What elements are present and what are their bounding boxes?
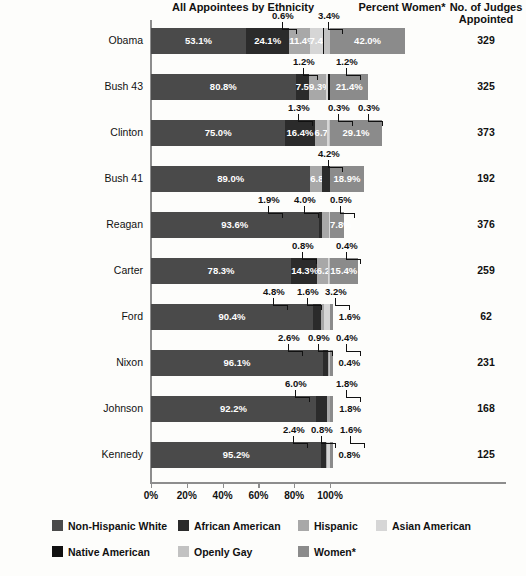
stacked-bar-nixon[interactable]: 96.1% <box>151 350 330 376</box>
women-bar-bush-43[interactable]: 21.4% <box>330 74 368 100</box>
x-tick-20 <box>187 482 188 488</box>
callout-leader-vertical <box>328 22 329 29</box>
x-tick-label-40: 40% <box>203 490 243 501</box>
segment-non-hispanic-white[interactable]: 78.3% <box>151 258 291 284</box>
segment-non-hispanic-white[interactable]: 89.0% <box>151 166 310 192</box>
callout-leader-vertical <box>321 436 322 443</box>
header-all-appointees-by-ethnicity: All Appointees by Ethnicity <box>138 1 348 13</box>
callout-leader-tip <box>349 305 350 310</box>
segment-african-american[interactable] <box>322 166 330 192</box>
segment-non-hispanic-white[interactable]: 95.2% <box>151 442 321 468</box>
stacked-bar-bush-41[interactable]: 89.0%6.8% <box>151 166 330 192</box>
stacked-bar-johnson[interactable]: 92.2% <box>151 396 330 422</box>
row-label-ford: Ford <box>0 310 143 322</box>
women-bar-reagan[interactable]: 7.8% <box>330 212 344 238</box>
callout-leader-horizontal <box>338 121 352 122</box>
callout-leader-horizontal <box>318 351 332 352</box>
judges-appointed-ford: 62 <box>446 310 526 322</box>
legend-item-openly-gay[interactable]: Openly Gay <box>178 542 252 560</box>
segment-non-hispanic-white[interactable]: 80.8% <box>151 74 296 100</box>
callout-leader-vertical <box>346 390 347 397</box>
callout-label: 1.6% <box>297 286 319 297</box>
callout-leader-horizontal <box>307 305 321 306</box>
legend-item-native-american[interactable]: Native American <box>52 542 150 560</box>
callout-leader-vertical <box>338 114 339 121</box>
callout-leader-horizontal <box>298 121 312 122</box>
segment-african-american[interactable]: 7.5% <box>296 74 309 100</box>
judges-appointed-nixon: 231 <box>446 356 526 368</box>
segment-non-hispanic-white[interactable]: 96.1% <box>151 350 323 376</box>
legend-row: Native AmericanOpenly GayWomen* <box>0 542 526 562</box>
legend-label: African American <box>194 520 281 532</box>
header-judges-line1: No. of Judges <box>446 1 526 13</box>
chart-row: Obama53.1%24.1%11.4%7.4%42.0%3290.6%3.4% <box>0 28 526 54</box>
callout-leader-tip <box>342 29 343 34</box>
callout-leader-tip <box>354 213 355 218</box>
stacked-bar-clinton[interactable]: 75.0%16.4%6.7% <box>151 120 330 146</box>
callout-leader-vertical <box>328 160 329 167</box>
callout-leader-horizontal <box>302 259 316 260</box>
callout-label: 3.4% <box>318 10 340 21</box>
stacked-bar-ford[interactable]: 90.4% <box>151 304 330 330</box>
callout-leader-vertical <box>340 206 341 213</box>
callout-label: 0.3% <box>328 102 350 113</box>
stacked-bar-carter[interactable]: 78.3%14.3%6.2% <box>151 258 330 284</box>
segment-hispanic[interactable]: 6.2% <box>317 258 328 284</box>
callout-label: 0.4% <box>336 332 358 343</box>
stacked-bar-bush-43[interactable]: 80.8%7.5%9.3% <box>151 74 330 100</box>
callout-leader-tip <box>360 397 361 402</box>
segment-hispanic[interactable] <box>322 212 329 238</box>
segment-non-hispanic-white[interactable]: 92.2% <box>151 396 316 422</box>
callout-leader-tip <box>360 351 361 356</box>
segment-non-hispanic-white[interactable]: 75.0% <box>151 120 285 146</box>
callout-leader-tip <box>309 397 310 402</box>
callout-label: 4.0% <box>294 194 316 205</box>
callout-leader-horizontal <box>368 121 382 122</box>
women-bar-bush-41[interactable]: 18.9% <box>330 166 364 192</box>
callout-label: 0.8% <box>311 424 333 435</box>
callout-leader-vertical <box>335 298 336 305</box>
row-label-nixon: Nixon <box>0 356 143 368</box>
callout-leader-tip <box>352 121 353 126</box>
segment-hispanic[interactable]: 6.8% <box>310 166 322 192</box>
stacked-bar-reagan[interactable]: 93.6% <box>151 212 330 238</box>
callout-leader-horizontal <box>346 351 360 352</box>
segment-non-hispanic-white[interactable]: 53.1% <box>151 28 246 54</box>
women-bar-carter[interactable]: 15.4% <box>330 258 358 284</box>
legend-label: Native American <box>68 546 150 558</box>
judges-appointed-carter: 259 <box>446 264 526 276</box>
segment-asian-american[interactable]: 7.4% <box>310 28 323 54</box>
x-axis-line <box>150 482 506 484</box>
segment-african-american[interactable]: 14.3% <box>291 258 317 284</box>
stacked-bar-obama[interactable]: 53.1%24.1%11.4%7.4% <box>151 28 330 54</box>
legend-label: Asian American <box>392 520 471 532</box>
segment-non-hispanic-white[interactable]: 90.4% <box>151 304 313 330</box>
segment-african-american[interactable]: 16.4% <box>285 120 314 146</box>
callout-leader-horizontal <box>288 351 302 352</box>
segment-hispanic[interactable]: 6.7% <box>315 120 327 146</box>
callout-leader-vertical <box>268 206 269 213</box>
women-bar-clinton[interactable]: 29.1% <box>330 120 382 146</box>
women-bar-ford[interactable] <box>330 304 333 330</box>
segment-non-hispanic-white[interactable]: 93.6% <box>151 212 319 238</box>
callout-leader-vertical <box>302 252 303 259</box>
segment-african-american[interactable]: 24.1% <box>246 28 289 54</box>
chart-row: Ford90.4%1.6%624.8%1.6%3.2% <box>0 304 526 330</box>
x-tick-0 <box>151 482 152 488</box>
legend-item-african-american[interactable]: African American <box>178 516 281 534</box>
legend-item-hispanic[interactable]: Hispanic <box>298 516 358 534</box>
callout-leader-tip <box>321 305 322 310</box>
callout-leader-vertical <box>298 114 299 121</box>
legend-item-non-hispanic-white[interactable]: Non-Hispanic White <box>52 516 167 534</box>
judges-appointed-bush-41: 192 <box>446 172 526 184</box>
callout-label: 0.9% <box>308 332 330 343</box>
segment-african-american[interactable] <box>316 396 327 422</box>
legend-item-asian-american[interactable]: Asian American <box>376 516 471 534</box>
stacked-bar-kennedy[interactable]: 95.2% <box>151 442 330 468</box>
women-bar-johnson[interactable] <box>330 396 333 422</box>
legend-label: Openly Gay <box>194 546 252 558</box>
legend-item-women-[interactable]: Women* <box>298 542 356 560</box>
segment-hispanic[interactable]: 11.4% <box>289 28 309 54</box>
callout-label: 0.8% <box>292 240 314 251</box>
women-bar-kennedy[interactable] <box>330 442 333 468</box>
